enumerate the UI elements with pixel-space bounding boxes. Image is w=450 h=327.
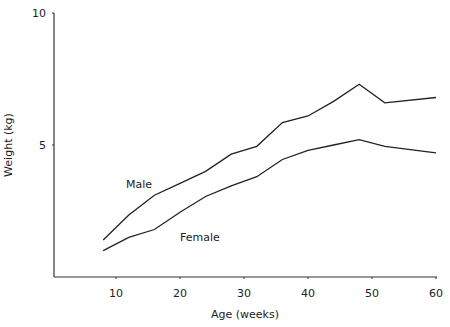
series-line-male (103, 84, 436, 240)
line-chart: 10 5 10 20 30 40 50 60 Age (weeks) Weigh… (0, 0, 450, 327)
x-tick-label-20: 20 (173, 287, 187, 300)
x-tick-label-50: 50 (365, 287, 379, 300)
x-tick-label-60: 60 (429, 287, 443, 300)
y-tick-label-5: 5 (39, 139, 46, 152)
x-tick-label-10: 10 (109, 287, 123, 300)
x-axis-label: Age (weeks) (211, 308, 279, 321)
x-tick-label-40: 40 (301, 287, 315, 300)
y-axis-label: Weight (kg) (2, 113, 15, 177)
x-tick-label-30: 30 (237, 287, 251, 300)
series-line-female (103, 140, 436, 251)
y-tick-label-10: 10 (32, 7, 46, 20)
series-label-female: Female (180, 231, 220, 244)
series-label-male: Male (126, 178, 152, 191)
